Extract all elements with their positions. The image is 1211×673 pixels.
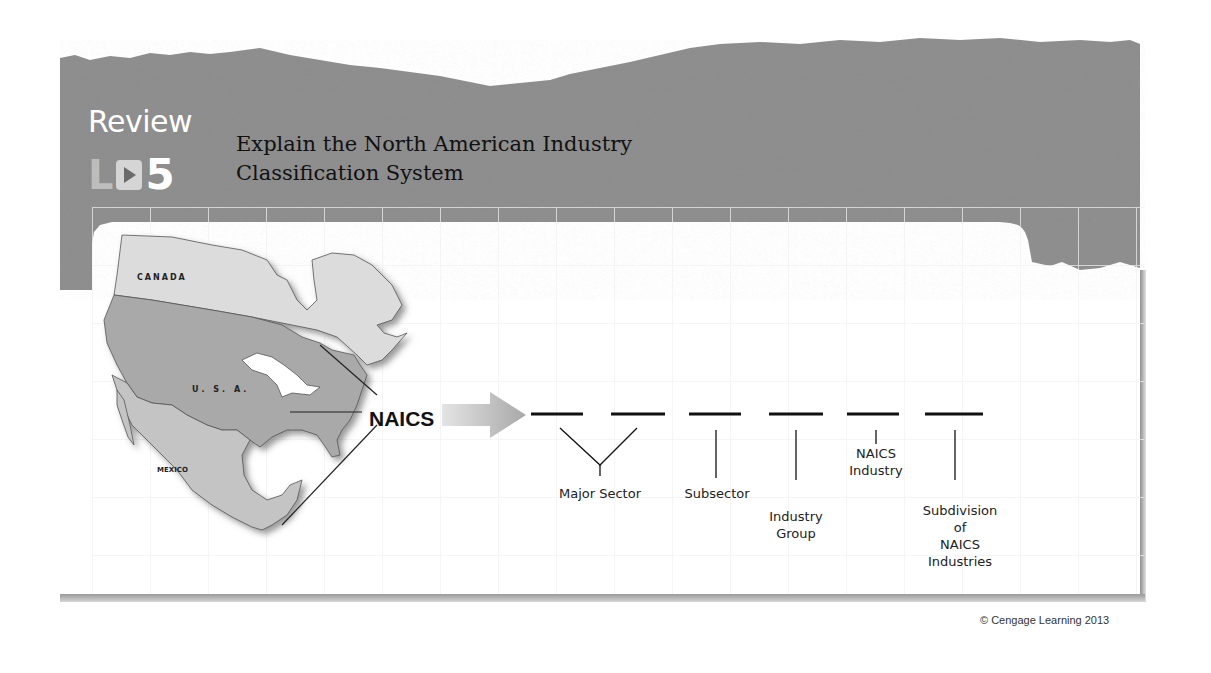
review-label: Review bbox=[88, 104, 192, 139]
lo-letter-l: L bbox=[88, 158, 114, 192]
title-line-2: Classification System bbox=[236, 159, 632, 188]
label-mexico: MEXICO bbox=[157, 466, 188, 474]
level-industry-group: Industry Group bbox=[756, 508, 836, 542]
level-subdivision: Subdivision of NAICS Industries bbox=[915, 502, 1005, 570]
lo-badge: L 5 bbox=[88, 158, 175, 192]
arrow-icon bbox=[440, 390, 530, 440]
level-subsector: Subsector bbox=[677, 485, 757, 502]
play-icon bbox=[116, 160, 142, 190]
level-major-sector: Major Sector bbox=[545, 485, 655, 502]
label-canada: CANADA bbox=[137, 273, 187, 282]
naics-label: NAICS bbox=[369, 407, 434, 431]
card-bottom-shadow bbox=[60, 594, 1145, 602]
title-line-1: Explain the North American Industry bbox=[236, 130, 632, 159]
naics-code-structure bbox=[525, 400, 995, 480]
page-title: Explain the North American Industry Clas… bbox=[236, 130, 632, 188]
copyright-notice: © Cengage Learning 2013 bbox=[980, 614, 1109, 626]
label-usa: U. S. A. bbox=[192, 385, 249, 394]
north-america-map: CANADA U. S. A. MEXICO bbox=[92, 225, 442, 555]
lo-number: 5 bbox=[146, 158, 175, 192]
review-slide: Review L 5 Explain the North American In… bbox=[0, 0, 1211, 673]
level-naics-industry: NAICS Industry bbox=[836, 445, 916, 479]
